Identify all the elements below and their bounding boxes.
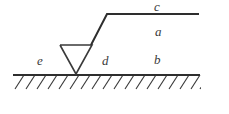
hatch-tick — [191, 75, 200, 89]
ground-hatching-group — [4, 75, 209, 89]
hatch-tick — [125, 75, 134, 89]
label-c: c — [154, 0, 160, 13]
hatch-tick — [37, 75, 46, 89]
hatch-tick — [15, 75, 24, 89]
label-e: e — [37, 54, 43, 67]
hatch-tick — [48, 75, 57, 89]
label-d: d — [102, 54, 109, 67]
figure-canvas: c a b d e — [0, 0, 229, 114]
hatch-tick — [200, 75, 209, 89]
hatch-tick — [114, 75, 123, 89]
hatch-tick — [81, 75, 90, 89]
hatch-tick — [4, 75, 13, 89]
hatch-tick — [158, 75, 167, 89]
hatch-tick — [92, 75, 101, 89]
label-b: b — [154, 53, 161, 66]
hatch-tick — [180, 75, 189, 89]
hatch-tick — [136, 75, 145, 89]
hatch-tick — [147, 75, 156, 89]
label-a: a — [155, 25, 162, 38]
hatch-tick — [26, 75, 35, 89]
hatch-tick — [169, 75, 178, 89]
diagram-svg — [0, 0, 229, 114]
hatch-tick — [103, 75, 112, 89]
riser-and-top-line — [91, 14, 199, 45]
triangle-outline — [60, 45, 92, 74]
hatch-tick — [70, 75, 79, 89]
hatch-tick — [59, 75, 68, 89]
